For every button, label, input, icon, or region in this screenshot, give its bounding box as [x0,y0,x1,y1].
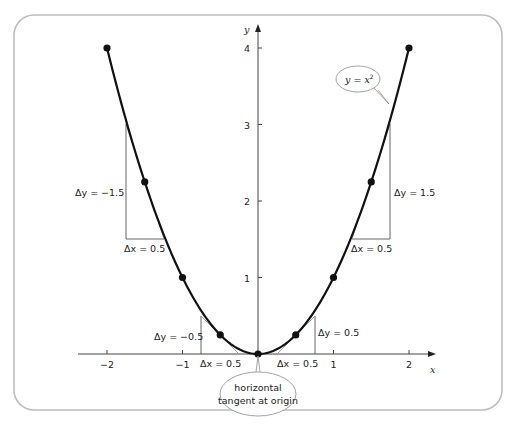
x-tick-label: −1 [175,359,189,370]
x-tick-label: −2 [100,359,114,370]
y-tick-label: 4 [244,43,250,54]
y-tick-label: 2 [244,196,250,207]
data-point [179,274,186,281]
parabola-figure: −2−1121234 x y Δy = −1.5 Δx = 0.5 Δ [0,0,516,443]
left-big-dx-label: Δx = 0.5 [124,243,165,254]
y-axis-label: y [243,24,250,35]
right-small-dy-label: Δy = 0.5 [318,327,359,338]
origin-callout-line1: horizontal [234,382,281,393]
y-tick-label: 3 [244,120,250,131]
data-point [141,178,148,185]
left-small-dx-label: Δx = 0.5 [200,358,241,369]
right-big-dy-label: Δy = 1.5 [394,187,435,198]
x-axis-label: x [430,364,436,375]
data-point [405,44,412,51]
x-tick-label: 2 [406,359,412,370]
right-big-dx-label: Δx = 0.5 [351,243,392,254]
curve-equation-label: y = x2 [344,73,374,85]
left-big-dy-label: Δy = −1.5 [75,187,124,198]
data-point [217,331,224,338]
data-point [330,274,337,281]
data-point [292,331,299,338]
x-tick-label: 1 [330,359,336,370]
right-small-dx-label: Δx = 0.5 [277,358,318,369]
left-small-dy-label: Δy = −0.5 [154,331,203,342]
y-tick-label: 1 [244,273,250,284]
data-point [368,178,375,185]
origin-callout-line2: tangent at origin [218,395,298,406]
data-point [103,44,110,51]
